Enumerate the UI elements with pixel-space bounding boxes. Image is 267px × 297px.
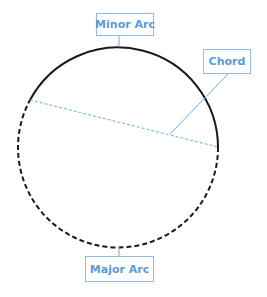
chord-label-text: Chord — [209, 55, 246, 68]
chord-line — [30, 100, 218, 147]
minor-arc-label: Minor Arc — [96, 13, 154, 36]
major-arc-label: Major Arc — [85, 256, 154, 282]
chord-leader — [170, 73, 229, 134]
circle-diagram — [0, 0, 267, 297]
major-arc-label-text: Major Arc — [90, 263, 149, 276]
chord-label: Chord — [203, 49, 251, 74]
minor-arc — [30, 47, 218, 147]
minor-arc-label-text: Minor Arc — [95, 18, 155, 31]
